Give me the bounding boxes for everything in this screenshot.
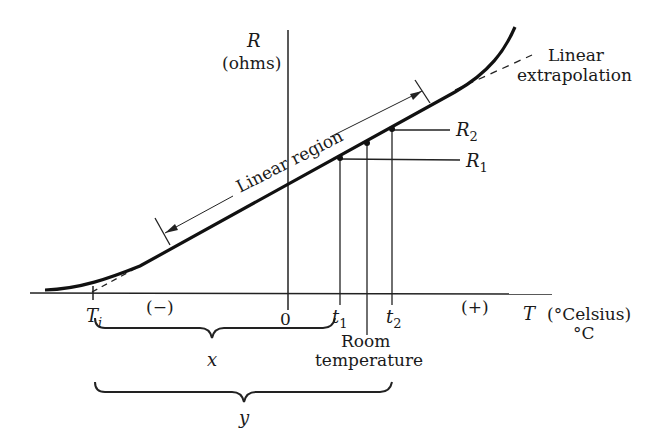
x-axis — [30, 293, 552, 294]
rt-diagram: Linear region R (ohms) Linear extrapolat… — [0, 0, 653, 444]
t2-label: t2 — [386, 306, 402, 331]
brace-y-label: y — [238, 407, 250, 428]
x-axis-unit-short: °C — [573, 323, 595, 343]
arrowhead-right-icon — [410, 91, 422, 100]
t1-label: t1 — [332, 306, 348, 331]
negative-side-label: (−) — [146, 297, 174, 317]
point-room — [364, 140, 370, 146]
brace-x-label: x — [207, 349, 217, 370]
room-temp-label-1: Room — [341, 331, 390, 351]
origin-label: 0 — [280, 309, 291, 329]
r2-label: R2 — [455, 119, 478, 144]
brace-y — [95, 382, 392, 402]
r1-line — [340, 159, 460, 160]
point-r2 — [389, 126, 395, 132]
x-axis-label: T — [523, 303, 537, 324]
y-axis-unit: (ohms) — [222, 53, 281, 73]
r1-label: R1 — [465, 150, 488, 175]
extrapolation-label-2: extrapolation — [517, 65, 632, 85]
ti-label: Ti — [86, 305, 102, 330]
extrapolation-label-1: Linear — [548, 45, 605, 65]
arrowhead-left-icon — [165, 224, 178, 233]
room-temp-label-2: temperature — [315, 350, 423, 370]
linear-region-end-right — [415, 80, 430, 103]
brace-x — [95, 318, 335, 338]
point-r1 — [337, 155, 343, 161]
x-axis-unit: (°Celsius) — [547, 304, 631, 324]
positive-side-label: (+) — [461, 297, 489, 317]
y-axis-label: R — [246, 30, 261, 51]
